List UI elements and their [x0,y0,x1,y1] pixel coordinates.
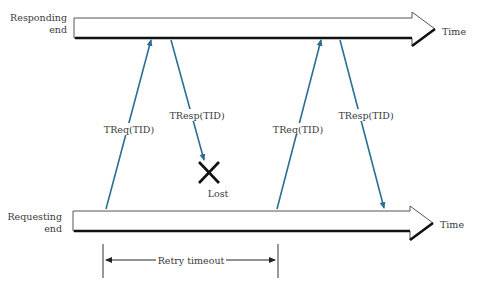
retry-timeout-diagram: Responding end Time Requesting end Time … [0,0,484,294]
tresp-arrow-lost [171,40,204,160]
responding-timeline-arrow [74,12,435,46]
responding-end-label-line2: end [49,24,67,35]
treq-label-2: TReq(TID) [273,124,323,135]
time-axis-label-bottom: Time [440,219,464,230]
lost-label: Lost [208,188,229,199]
treq-label-1: TReq(TID) [104,124,154,135]
requesting-end-label: Requesting [7,211,62,222]
time-axis-label-top: Time [442,26,466,37]
lost-x-icon [199,162,219,183]
requesting-timeline-arrow [73,206,433,240]
retry-timeout-label: Retry timeout [158,255,225,266]
tresp-arrow-2 [340,40,384,208]
responding-end-label: Responding [10,12,67,23]
requesting-end-label-line2: end [44,223,62,234]
tresp-label-1: TResp(TID) [169,110,224,121]
tresp-label-2: TResp(TID) [338,110,393,121]
